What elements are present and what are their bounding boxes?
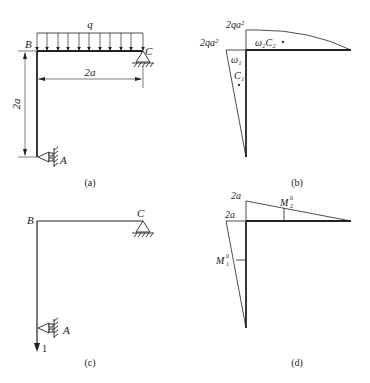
panel-b	[226, 30, 351, 157]
roller-support-A-icon	[38, 318, 58, 338]
panel-a	[18, 33, 154, 167]
label-M1-0: M 0 1	[215, 253, 229, 267]
node-label-C: C	[145, 45, 153, 57]
centroid-label-C1: C₁	[234, 70, 244, 81]
value-label-top: 2a	[231, 190, 241, 201]
label-M2-0: M 0 2	[279, 195, 293, 209]
dim-label-vertical: 2a	[10, 98, 22, 110]
area-label-omega1: ω₁	[231, 54, 242, 65]
moment-value-left: 2qa²	[200, 37, 219, 48]
area-label-omega2: ω₂C₂	[255, 37, 276, 48]
caption-d: (d)	[291, 357, 303, 369]
load-label-q: q	[87, 18, 93, 30]
dim-label-horizontal: 2a	[85, 66, 97, 78]
node-label-A: A	[59, 154, 67, 166]
caption-b: (b)	[291, 177, 303, 189]
moment-triangle-AB	[226, 221, 246, 328]
value-label-left: 2a	[225, 209, 235, 220]
figure-canvas: q B C A 2a 2a (a) 2qa² 2qa² ω₂C₂ ω₁ C₁ (…	[0, 0, 370, 383]
node-label-A: A	[62, 324, 70, 336]
node-label-B: B	[27, 214, 34, 226]
panel-d	[226, 201, 351, 328]
svg-text:M: M	[279, 197, 289, 208]
svg-text:0: 0	[290, 195, 293, 201]
distributed-load-arrows	[37, 33, 143, 50]
panel-c	[34, 221, 154, 352]
svg-text:M: M	[215, 255, 225, 266]
unit-load-label: 1	[42, 343, 47, 354]
svg-text:1: 1	[226, 261, 229, 267]
caption-a: (a)	[84, 177, 95, 189]
roller-support-A-icon	[38, 147, 58, 167]
caption-c: (c)	[84, 357, 95, 369]
node-label-B: B	[25, 38, 32, 50]
node-label-C: C	[137, 207, 145, 219]
moment-value-top: 2qa²	[226, 19, 245, 30]
moment-triangle-BC	[246, 201, 351, 221]
moment-triangle-AB	[226, 50, 246, 157]
pin-support-C-icon	[132, 221, 154, 237]
svg-text:0: 0	[226, 253, 229, 259]
svg-text:2: 2	[290, 203, 293, 209]
